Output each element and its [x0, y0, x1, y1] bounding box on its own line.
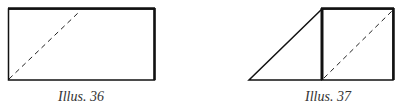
illus-37-figure: [249, 8, 394, 80]
illus-36-rectangle: [9, 9, 155, 80]
illus-36-caption: Illus. 36: [58, 89, 104, 105]
illus-36-figure: [8, 8, 155, 80]
illus-37-dashed-diagonal: [324, 11, 392, 78]
illus-36-dashed-diagonal: [9, 13, 78, 79]
illus-37-triangle: [249, 9, 322, 80]
illus-37-caption: Illus. 37: [305, 89, 351, 105]
